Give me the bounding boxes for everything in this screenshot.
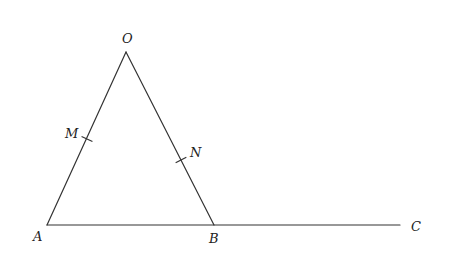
label-a: A xyxy=(32,229,42,244)
segment-ob xyxy=(126,52,214,225)
label-o: O xyxy=(122,31,133,46)
geometry-diagram: O A B C M N xyxy=(0,0,449,257)
label-b: B xyxy=(208,231,219,246)
label-c: C xyxy=(411,219,421,234)
label-n: N xyxy=(189,145,202,160)
label-m: M xyxy=(64,126,79,141)
tick-mark-n xyxy=(176,157,187,162)
